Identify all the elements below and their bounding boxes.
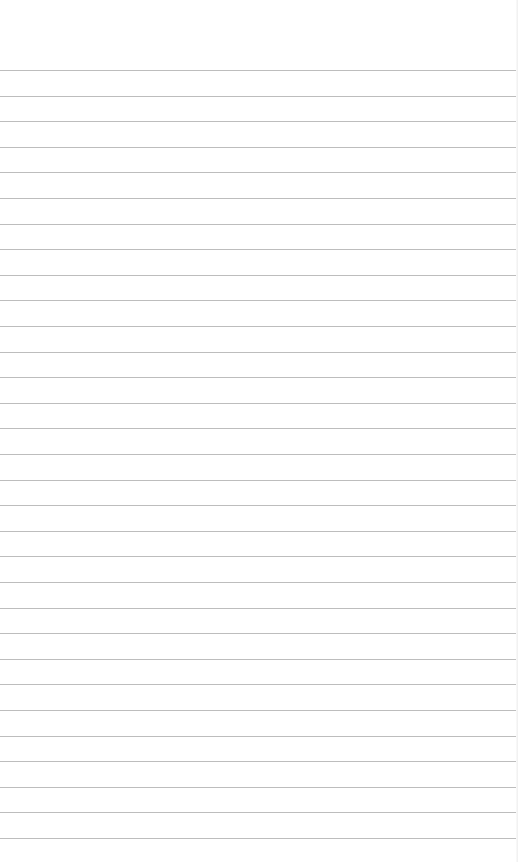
ruled-line xyxy=(0,249,516,250)
ruled-line xyxy=(0,454,516,455)
ruled-line xyxy=(0,659,516,660)
ruled-line xyxy=(0,684,516,685)
ruled-line xyxy=(0,531,516,532)
ruled-line xyxy=(0,710,516,711)
ruled-line xyxy=(0,352,516,353)
ruled-line xyxy=(0,608,516,609)
ruled-line xyxy=(0,96,516,97)
ruled-line xyxy=(0,121,516,122)
ruled-line xyxy=(0,147,516,148)
ruled-line xyxy=(0,224,516,225)
ruled-line xyxy=(0,300,516,301)
ruled-line xyxy=(0,198,516,199)
ruled-line xyxy=(0,326,516,327)
ruled-line xyxy=(0,838,516,839)
ruled-line xyxy=(0,556,516,557)
ruled-line xyxy=(0,761,516,762)
ruled-line xyxy=(0,505,516,506)
ruled-line xyxy=(0,428,516,429)
ruled-line xyxy=(0,787,516,788)
ruled-line xyxy=(0,377,516,378)
lined-paper-sheet xyxy=(0,0,518,862)
ruled-line xyxy=(0,275,516,276)
ruled-line xyxy=(0,582,516,583)
ruled-line xyxy=(0,736,516,737)
ruled-line xyxy=(0,403,516,404)
ruled-line xyxy=(0,633,516,634)
ruled-line xyxy=(0,812,516,813)
ruled-line xyxy=(0,480,516,481)
ruled-line xyxy=(0,70,516,71)
ruled-line xyxy=(0,172,516,173)
